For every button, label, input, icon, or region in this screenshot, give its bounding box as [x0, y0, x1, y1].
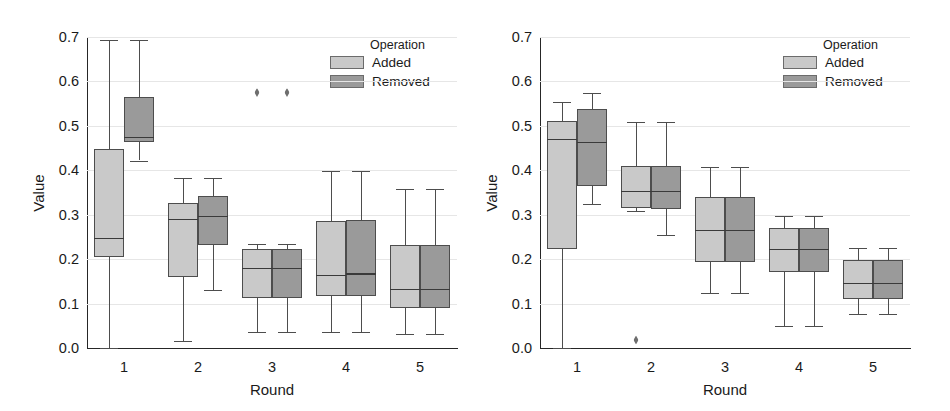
- x-axis-title-right: Round: [703, 381, 747, 398]
- whisker-cap-high: [204, 178, 222, 179]
- y-tick-label: 0.4: [492, 162, 532, 178]
- box-removed-round-2[interactable]: [198, 196, 228, 245]
- box-removed-round-1[interactable]: [124, 97, 154, 142]
- whisker-cap-high: [426, 189, 444, 190]
- median-line: [725, 230, 755, 231]
- whisker-cap-high: [849, 248, 867, 249]
- whisker-cap-high: [701, 167, 719, 168]
- whisker-low: [361, 296, 362, 332]
- whisker-cap-low: [731, 293, 749, 294]
- whisker-low: [405, 308, 406, 334]
- box-removed-round-3[interactable]: [272, 249, 302, 297]
- box-added-round-2[interactable]: [168, 203, 198, 277]
- whisker-cap-high: [278, 244, 296, 245]
- legend-label-added: Added: [372, 55, 411, 70]
- y-gridline: [540, 37, 910, 38]
- whisker-cap-high: [627, 122, 645, 123]
- x-tick-label: 1: [120, 359, 128, 375]
- legend-right: Operation Added Removed: [783, 38, 918, 93]
- box-added-round-5[interactable]: [390, 245, 420, 308]
- median-line: [843, 283, 873, 284]
- y-tick-label: 0.2: [492, 251, 532, 267]
- x-axis-title-left: Round: [250, 381, 294, 398]
- whisker-cap-low: [805, 326, 823, 327]
- whisker-cap-low: [701, 293, 719, 294]
- box-removed-round-1[interactable]: [577, 109, 607, 186]
- x-tick-label: 2: [194, 359, 202, 375]
- whisker-cap-low: [100, 348, 118, 349]
- whisker-cap-high: [322, 171, 340, 172]
- whisker-cap-low: [352, 332, 370, 333]
- legend-swatch-added-icon: [330, 56, 364, 69]
- median-line: [695, 230, 725, 231]
- y-tick-label: 0.0: [492, 340, 532, 356]
- whisker-high: [331, 171, 332, 221]
- whisker-low: [331, 296, 332, 332]
- y-gridline: [87, 37, 457, 38]
- whisker-low: [784, 272, 785, 325]
- median-line: [242, 268, 272, 269]
- median-line: [547, 139, 577, 140]
- whisker-cap-high: [583, 93, 601, 94]
- x-tick-label: 4: [342, 359, 350, 375]
- median-line: [346, 273, 376, 274]
- boxplot-figure: Value Round Operation Added Removed 0.00…: [0, 0, 950, 411]
- median-line: [124, 137, 154, 138]
- box-removed-round-5[interactable]: [420, 245, 450, 308]
- whisker-low: [287, 298, 288, 333]
- box-removed-round-4[interactable]: [346, 220, 376, 296]
- whisker-low: [435, 308, 436, 334]
- whisker-cap-low: [426, 334, 444, 335]
- median-line: [390, 289, 420, 290]
- legend-entry-added[interactable]: Added: [783, 55, 918, 70]
- whisker-high: [139, 40, 140, 97]
- y-tick-label: 0.1: [492, 296, 532, 312]
- whisker-cap-high: [396, 189, 414, 190]
- whisker-cap-high: [130, 40, 148, 41]
- whisker-cap-high: [731, 167, 749, 168]
- x-tick-label: 4: [795, 359, 803, 375]
- box-removed-round-2[interactable]: [651, 166, 681, 209]
- y-gridline: [540, 81, 910, 82]
- y-tick-label: 0.5: [492, 118, 532, 134]
- median-line: [873, 283, 903, 284]
- box-removed-round-5[interactable]: [873, 260, 903, 299]
- box-added-round-3[interactable]: [242, 249, 272, 297]
- y-tick-label: 0.3: [492, 207, 532, 223]
- median-line: [94, 238, 124, 239]
- panel-left: Value Round Operation Added Removed 0.00…: [0, 0, 475, 411]
- whisker-low: [888, 299, 889, 314]
- x-tick-label: 1: [573, 359, 581, 375]
- whisker-high: [888, 248, 889, 260]
- legend-left: Operation Added Removed: [330, 38, 465, 93]
- whisker-high: [814, 216, 815, 228]
- x-tick-label: 2: [647, 359, 655, 375]
- box-added-round-4[interactable]: [316, 221, 346, 296]
- y-gridline: [87, 81, 457, 82]
- whisker-cap-low: [204, 290, 222, 291]
- legend-swatch-added-icon: [783, 56, 817, 69]
- x-tick-label: 5: [416, 359, 424, 375]
- median-line: [198, 216, 228, 217]
- box-added-round-4[interactable]: [769, 228, 799, 272]
- median-line: [799, 249, 829, 250]
- whisker-high: [109, 40, 110, 149]
- whisker-high: [740, 167, 741, 197]
- whisker-high: [213, 178, 214, 196]
- x-tick-label: 5: [869, 359, 877, 375]
- y-tick-label: 0.7: [39, 29, 79, 45]
- box-added-round-1[interactable]: [94, 149, 124, 257]
- y-tick-label: 0.0: [39, 340, 79, 356]
- y-gridline: [87, 215, 457, 216]
- median-line: [651, 191, 681, 192]
- box-added-round-2[interactable]: [621, 166, 651, 208]
- y-tick-label: 0.6: [39, 73, 79, 89]
- legend-entry-added[interactable]: Added: [330, 55, 465, 70]
- box-removed-round-4[interactable]: [799, 228, 829, 272]
- whisker-high: [858, 248, 859, 260]
- whisker-cap-high: [879, 248, 897, 249]
- whisker-low: [183, 277, 184, 341]
- legend-title: Operation: [330, 38, 465, 52]
- box-added-round-5[interactable]: [843, 260, 873, 299]
- legend-title: Operation: [783, 38, 918, 52]
